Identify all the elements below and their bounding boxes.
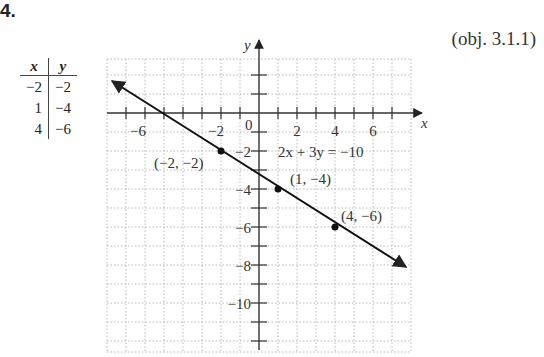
y-tick-label: −2 [235, 144, 251, 160]
point-marker [332, 224, 339, 231]
point-label: (1, −4) [290, 171, 331, 188]
point-label: (−2, −2) [154, 155, 203, 172]
x-axis-label: x [420, 115, 428, 131]
x-tick-label: 6 [369, 123, 377, 139]
point-label: (4, −6) [341, 208, 382, 225]
y-tick-label: −8 [235, 258, 251, 274]
y-tick-label: −4 [235, 182, 251, 198]
y-tick-label: −10 [228, 296, 251, 312]
equation-label: 2x + 3y = −10 [278, 144, 363, 160]
x-tick-label: 2 [293, 123, 301, 139]
coordinate-graph: y x 0 −6 −2 2 4 6 −2 −4 −6 −8 −10 (−2, −… [0, 0, 544, 357]
x-tick-label: 4 [331, 123, 339, 139]
point-marker [218, 148, 225, 155]
point-marker [275, 186, 282, 193]
origin-label: 0 [245, 117, 253, 133]
x-tick-label: −6 [130, 123, 146, 139]
y-axis-label: y [242, 37, 251, 53]
x-tick-label: −2 [208, 123, 224, 139]
y-tick-label: −6 [235, 220, 251, 236]
